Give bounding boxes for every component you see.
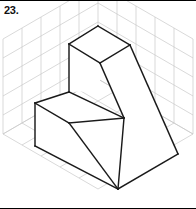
isometric-drawing	[0, 1, 196, 209]
figure-container: 23.	[0, 0, 196, 209]
